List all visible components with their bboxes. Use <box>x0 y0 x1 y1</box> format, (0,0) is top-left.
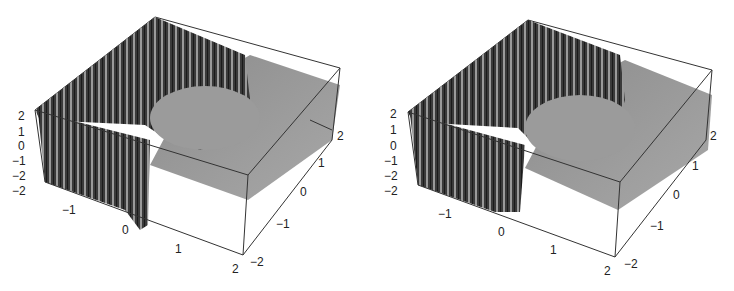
z-tick: 2 <box>390 107 397 121</box>
z-tick: −2 <box>12 169 26 183</box>
surface-plot-left: 2 1 0 −1 −2 −2 −1 0 1 2 2 1 0 −1 −2 <box>0 0 367 291</box>
y-tick: −1 <box>650 219 664 233</box>
z-tick: −1 <box>12 154 26 168</box>
x-tick: −1 <box>62 203 76 217</box>
z-tick: 0 <box>390 139 397 153</box>
z-tick: −2 <box>384 184 398 198</box>
plot-canvas: 2 1 0 −1 −2 −2 −1 0 1 2 2 1 0 −1 −2 <box>0 0 367 291</box>
z-tick: −2 <box>12 184 26 198</box>
surface-spikes-front <box>410 114 525 212</box>
x-tick: 2 <box>604 264 611 278</box>
z-tick: −2 <box>384 169 398 183</box>
y-tick: −2 <box>250 255 264 269</box>
x-tick: 1 <box>175 242 182 256</box>
x-tick: 0 <box>122 223 129 237</box>
surface-plot-right: 2 1 0 −1 −2 −2 −1 0 1 2 2 1 0 −1 −2 <box>370 0 734 291</box>
z-tick: 1 <box>18 125 25 139</box>
surface-plateau <box>525 95 635 161</box>
z-tick: 1 <box>390 123 397 137</box>
y-tick: 0 <box>673 188 680 202</box>
y-tick: 1 <box>318 156 325 170</box>
x-tick: −1 <box>438 207 452 221</box>
y-tick: −2 <box>624 257 638 271</box>
plot-canvas: 2 1 0 −1 −2 −2 −1 0 1 2 2 1 0 −1 −2 <box>370 0 734 291</box>
z-tick: 0 <box>18 139 25 153</box>
z-tick: −1 <box>384 154 398 168</box>
x-tick: 1 <box>550 243 557 257</box>
y-tick: 2 <box>337 129 344 143</box>
surface-spikes-front <box>38 112 150 230</box>
y-tick: −1 <box>276 217 290 231</box>
y-tick: 1 <box>692 159 699 173</box>
y-tick: 0 <box>300 185 307 199</box>
x-tick: 0 <box>498 225 505 239</box>
z-tick: 2 <box>18 109 25 123</box>
x-tick: 2 <box>232 262 239 276</box>
y-tick: 2 <box>710 129 717 143</box>
surface-plateau <box>150 86 260 150</box>
